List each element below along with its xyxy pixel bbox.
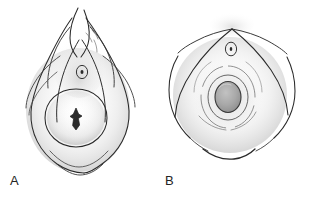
anatomical-illustration [0,0,317,202]
panel-b-aperture-center-dot [230,47,233,51]
panel-label-b: B [165,174,174,187]
figure-container: A B [0,0,317,202]
panel-a-aperture-center-dot [81,70,84,74]
panel-label-a: A [10,174,19,187]
panel-b-central-filled-oval [215,82,241,113]
